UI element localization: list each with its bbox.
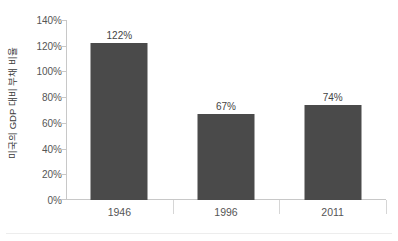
bar-1946[interactable]: [91, 43, 148, 200]
bar-value-label-1946: 122%: [107, 30, 133, 41]
y-tick-label: 0%: [20, 195, 62, 206]
bar-group-2011: 74%: [279, 20, 386, 200]
y-tick-label: 80%: [20, 92, 62, 103]
x-axis-separator-tick: [386, 200, 387, 214]
bar-2011[interactable]: [304, 105, 361, 200]
y-tick-label: 140%: [20, 15, 62, 26]
bar-chart: 미국의 GDP 대비 부채 비율 140% 120% 100% 80% 60% …: [0, 0, 398, 241]
x-axis-label-2011: 2011: [279, 206, 386, 218]
y-tick-label: 40%: [20, 143, 62, 154]
y-tick-label: 60%: [20, 117, 62, 128]
bar-1996[interactable]: [197, 114, 254, 200]
y-tick-label: 120%: [20, 40, 62, 51]
y-tick-label: 20%: [20, 169, 62, 180]
y-axis-tick-labels: 140% 120% 100% 80% 60% 40% 20% 0%: [18, 0, 62, 241]
y-tick-label: 100%: [20, 66, 62, 77]
y-axis-title-text: 미국의 GDP 대비 부채 비율: [5, 47, 19, 159]
bar-value-label-2011: 74%: [323, 92, 343, 103]
x-axis-label-1996: 1996: [173, 206, 280, 218]
bottom-divider: [6, 233, 392, 234]
bar-value-label-1996: 67%: [216, 101, 236, 112]
bar-group-1996: 67%: [173, 20, 280, 200]
plot-area: 122% 67% 74%: [66, 20, 386, 200]
x-axis-label-1946: 1946: [66, 206, 173, 218]
bar-group-1946: 122%: [66, 20, 173, 200]
